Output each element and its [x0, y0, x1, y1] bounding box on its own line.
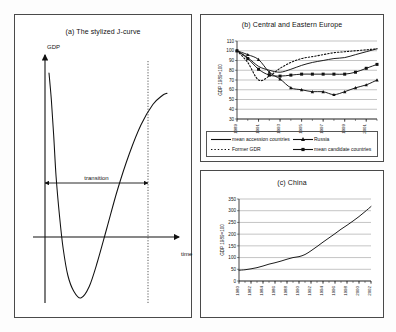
svg-text:transition: transition — [84, 175, 108, 181]
figure-canvas: (a) The stylized J-curve GDPtimetransiti… — [0, 0, 396, 332]
legend-label: Former GDR — [232, 146, 261, 152]
panel-c-plot: 0501001502002503003501980198219841986198… — [201, 171, 385, 319]
svg-text:200: 200 — [228, 232, 236, 237]
svg-text:70: 70 — [229, 78, 235, 83]
legend-label: mean candidate countries — [314, 146, 371, 152]
svg-text:30: 30 — [229, 117, 235, 122]
svg-text:350: 350 — [228, 197, 236, 202]
svg-text:100: 100 — [226, 48, 234, 53]
svg-text:80: 80 — [229, 68, 235, 73]
svg-text:150: 150 — [228, 244, 236, 249]
svg-text:0: 0 — [233, 279, 236, 284]
legend-label: Russia — [314, 136, 329, 142]
svg-text:1994: 1994 — [319, 285, 324, 295]
svg-text:1982: 1982 — [247, 285, 252, 295]
legend-label: mean accession countries — [232, 136, 290, 142]
svg-text:1998: 1998 — [343, 285, 348, 295]
legend-key-solid-triangle — [292, 135, 314, 144]
legend-key-solid-square — [292, 145, 314, 154]
legend-item-mean-candidate-countries: mean candidate countries — [292, 144, 374, 154]
svg-text:GDP 1989=100: GDP 1989=100 — [220, 224, 225, 256]
svg-text:1996: 1996 — [331, 285, 336, 295]
svg-text:50: 50 — [231, 267, 237, 272]
svg-text:1992: 1992 — [307, 285, 312, 295]
svg-text:250: 250 — [228, 220, 236, 225]
svg-text:2000: 2000 — [355, 285, 360, 295]
svg-text:110: 110 — [227, 39, 235, 44]
legend-item-former-gdr: Former GDR — [210, 144, 292, 154]
legend-item-mean-accession-countries: mean accession countries — [210, 134, 292, 144]
svg-text:1986: 1986 — [271, 285, 276, 295]
svg-text:1984: 1984 — [259, 285, 264, 295]
svg-text:GDP: GDP — [47, 44, 60, 50]
svg-text:40: 40 — [229, 107, 235, 112]
svg-text:60: 60 — [229, 87, 235, 92]
svg-text:time: time — [181, 251, 193, 257]
svg-text:100: 100 — [228, 255, 236, 260]
svg-text:1990: 1990 — [295, 285, 300, 295]
legend-key-solid-none — [210, 135, 232, 144]
panel-b-legend: mean accession countriesRussiaFormer GDR… — [206, 131, 378, 157]
legend-item-russia: Russia — [292, 134, 374, 144]
svg-text:1980: 1980 — [235, 285, 240, 295]
panel-a-plot: GDPtimetransition — [15, 15, 193, 319]
svg-text:1988: 1988 — [283, 285, 288, 295]
svg-text:300: 300 — [228, 208, 236, 213]
panel-b-plot: 3040506070809010011019891991199319951997… — [201, 15, 385, 133]
svg-text:90: 90 — [229, 58, 235, 63]
svg-text:2002: 2002 — [367, 285, 372, 295]
panel-stylized-j-curve: (a) The stylized J-curve GDPtimetransiti… — [14, 14, 192, 318]
panel-central-eastern-europe: (b) Central and Eastern Europe 304050607… — [200, 14, 384, 162]
legend-key-dotted-none — [210, 145, 232, 154]
svg-text:GDP 1989=100: GDP 1989=100 — [218, 64, 223, 96]
panel-china: (c) China 050100150200250300350198019821… — [200, 170, 384, 318]
svg-text:50: 50 — [229, 97, 235, 102]
